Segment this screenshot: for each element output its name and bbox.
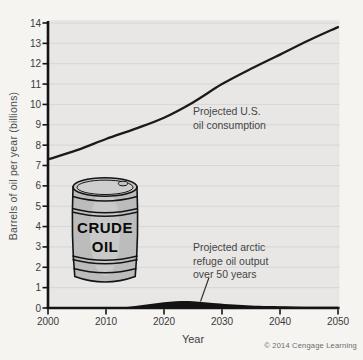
y-tick-label: 0 <box>0 303 41 314</box>
y-tick-label: 3 <box>0 241 41 252</box>
y-tick-label: 1 <box>0 282 41 293</box>
x-tick-label: 2050 <box>327 316 349 327</box>
y-tick-label: 12 <box>0 58 41 69</box>
copyright-text: © 2014 Cengage Learning <box>264 341 357 350</box>
barrel-bung-cap-icon <box>118 181 127 186</box>
consumption-annotation-line1: Projected U.S. <box>193 105 266 119</box>
arctic-annotation: Projected arctic refuge oil output over … <box>193 241 268 282</box>
crude-oil-barrel: CRUDE OIL <box>72 178 138 282</box>
oil-consumption-chart: CRUDE OIL 012345678910111213142000201020… <box>0 0 363 360</box>
arctic-annotation-line2: refuge oil output <box>193 255 268 269</box>
y-tick-label: 11 <box>0 79 41 90</box>
consumption-annotation: Projected U.S. oil consumption <box>193 105 266 132</box>
consumption-annotation-line2: oil consumption <box>193 119 266 133</box>
x-tick-label: 2030 <box>211 316 233 327</box>
x-axis-title: Year <box>182 333 204 345</box>
barrel-label-oil: OIL <box>92 238 119 255</box>
x-tick-label: 2000 <box>37 316 59 327</box>
y-tick-label: 14 <box>0 18 41 29</box>
y-tick-label: 2 <box>0 262 41 273</box>
barrel-label-crude: CRUDE <box>77 219 133 236</box>
x-tick-label: 2040 <box>269 316 291 327</box>
x-tick-label: 2010 <box>95 316 117 327</box>
x-tick-label: 2020 <box>153 316 175 327</box>
y-axis-title: Barrels of oil per year (billions) <box>7 92 19 241</box>
chart-canvas: CRUDE OIL <box>0 0 363 360</box>
y-tick-label: 13 <box>0 38 41 49</box>
arctic-annotation-line1: Projected arctic <box>193 241 268 255</box>
arctic-annotation-line3: over 50 years <box>193 268 268 282</box>
